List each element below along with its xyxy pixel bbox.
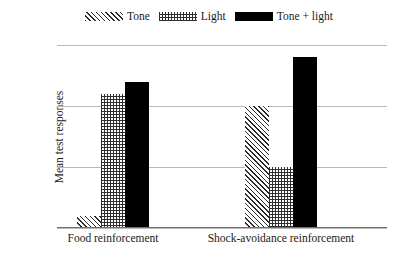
legend-label-tone: Tone: [127, 11, 150, 23]
gridline: [57, 228, 387, 229]
bar-chart: Tone Light Tone + light Mean test respon…: [0, 0, 401, 261]
bar-group: [245, 45, 317, 228]
x-axis-tick-label: Shock-avoidance reinforcement: [208, 232, 355, 244]
x-axis-tick-label: Food reinforcement: [67, 232, 158, 244]
x-axis-line: [57, 227, 387, 228]
bar-tone: [245, 106, 269, 228]
bar-light: [101, 94, 125, 228]
bar-tone-light: [293, 57, 317, 228]
plot-area: Mean test responses 051015: [57, 45, 387, 228]
legend-item-tone: Tone: [85, 11, 150, 23]
legend-item-tone-plus-light: Tone + light: [235, 11, 333, 23]
legend-swatch-hatch-icon: [85, 12, 123, 21]
x-axis-tick-labels: Food reinforcementShock-avoidance reinfo…: [57, 232, 387, 256]
bar-group: [77, 45, 149, 228]
legend-swatch-solid-icon: [235, 12, 273, 21]
bar-light: [269, 167, 293, 228]
legend-item-light: Light: [159, 11, 226, 23]
bar-series-layer: [57, 45, 387, 228]
legend-label-tone-plus-light: Tone + light: [277, 11, 333, 23]
legend-swatch-dots-icon: [159, 12, 197, 21]
chart-legend: Tone Light Tone + light: [85, 11, 333, 23]
bar-tone-light: [125, 82, 149, 228]
legend-label-light: Light: [201, 11, 226, 23]
